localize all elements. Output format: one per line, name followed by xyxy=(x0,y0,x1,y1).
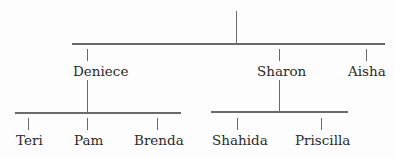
sharon-stem xyxy=(279,80,280,111)
family-tree-diagram: Deniece Sharon Aisha Teri Pam Brenda Sha… xyxy=(0,0,395,158)
node-deniece: Deniece xyxy=(73,64,128,78)
teri-tick xyxy=(28,118,29,130)
generation1-bar xyxy=(72,43,385,45)
deniece-stem xyxy=(87,80,88,112)
node-pam: Pam xyxy=(74,133,103,147)
shahida-tick xyxy=(237,118,238,130)
priscilla-tick xyxy=(321,118,322,130)
sharon-children-bar xyxy=(211,111,348,113)
aisha-tick xyxy=(366,49,367,61)
pam-tick xyxy=(87,118,88,130)
node-aisha: Aisha xyxy=(348,64,386,78)
root-stem-line xyxy=(236,11,237,43)
node-priscilla: Priscilla xyxy=(295,133,350,147)
brenda-tick xyxy=(157,118,158,130)
deniece-tick xyxy=(87,49,88,61)
node-teri: Teri xyxy=(16,133,43,147)
node-sharon: Sharon xyxy=(257,64,306,78)
deniece-children-bar xyxy=(15,112,181,114)
node-brenda: Brenda xyxy=(134,133,184,147)
sharon-tick xyxy=(279,49,280,61)
node-shahida: Shahida xyxy=(212,133,268,147)
